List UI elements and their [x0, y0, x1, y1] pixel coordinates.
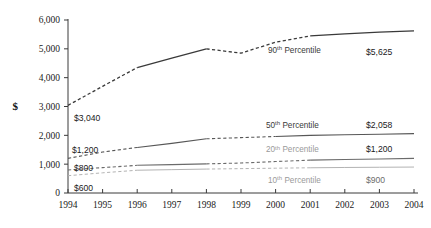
y-axis-tick-label: 3,000: [39, 102, 61, 112]
y-axis-currency-symbol: $: [13, 100, 19, 112]
end-value-label-90: $5,625: [366, 47, 393, 57]
x-axis-tick-label: 1996: [128, 200, 147, 210]
series-name-label-10: 10th Percentile: [268, 175, 321, 185]
y-axis-tick-label: 1,000: [39, 160, 61, 170]
chart-container: 01,0002,0003,0004,0005,0006,000$ 1994199…: [0, 0, 431, 228]
x-axis-tick-label: 1998: [197, 200, 216, 210]
series-line-20th-percentile: [206, 160, 310, 164]
series-line-50th-percentile: [276, 134, 414, 137]
y-axis-tick-label: 0: [55, 188, 60, 198]
series-line-10th-percentile: [137, 169, 206, 170]
x-axis-tick-label: 1994: [59, 200, 78, 210]
series-name-label-90: 90th Percentile: [268, 45, 321, 55]
end-value-label-10: $900: [366, 175, 385, 185]
x-axis: 1994199519961997199819992000200120022003…: [59, 189, 424, 210]
series-line-20th-percentile: [137, 164, 206, 165]
series-line-20th-percentile: [310, 158, 414, 160]
series-name-label-20: 20th Percentile: [266, 145, 319, 155]
value-annotations: $3,040$1,200$800$600$5,625$2,058$1,200$9…: [72, 45, 393, 192]
start-value-label-90: $3,040: [74, 113, 101, 123]
series-line-50th-percentile: [206, 136, 275, 138]
x-axis-tick-label: 2003: [370, 200, 389, 210]
y-axis-tick-label: 4,000: [39, 73, 61, 83]
series-line-10th-percentile: [310, 167, 414, 168]
x-axis-tick-label: 2000: [266, 200, 285, 210]
x-axis-tick-label: 2001: [301, 200, 320, 210]
end-value-label-20: $1,200: [366, 144, 393, 154]
series-line-50th-percentile: [137, 139, 206, 148]
end-value-label-50: $2,058: [366, 120, 393, 130]
line-chart-plot: 01,0002,0003,0004,0005,0006,000$ 1994199…: [0, 0, 431, 228]
x-axis-tick-label: 2004: [405, 200, 424, 210]
y-axis-tick-label: 5,000: [39, 44, 61, 54]
series-line-90th-percentile: [310, 31, 414, 36]
start-value-label-50: $1,200: [72, 145, 99, 155]
series-line-10th-percentile: [206, 168, 310, 169]
series-lines: [68, 31, 414, 176]
series-line-90th-percentile: [68, 68, 137, 106]
start-value-label-20: $800: [74, 163, 93, 173]
x-axis-tick-label: 1995: [93, 200, 112, 210]
series-name-label-50: 50th Percentile: [266, 120, 319, 130]
start-value-label-10: $600: [74, 183, 93, 193]
x-axis-tick-label: 2002: [335, 200, 354, 210]
y-axis: 01,0002,0003,0004,0005,0006,000$: [13, 15, 69, 198]
y-axis-tick-label: 2,000: [39, 131, 61, 141]
y-axis-tick-label: 6,000: [39, 15, 61, 25]
x-axis-tick-label: 1997: [162, 200, 181, 210]
series-line-90th-percentile: [137, 49, 206, 68]
x-axis-tick-label: 1999: [232, 200, 251, 210]
